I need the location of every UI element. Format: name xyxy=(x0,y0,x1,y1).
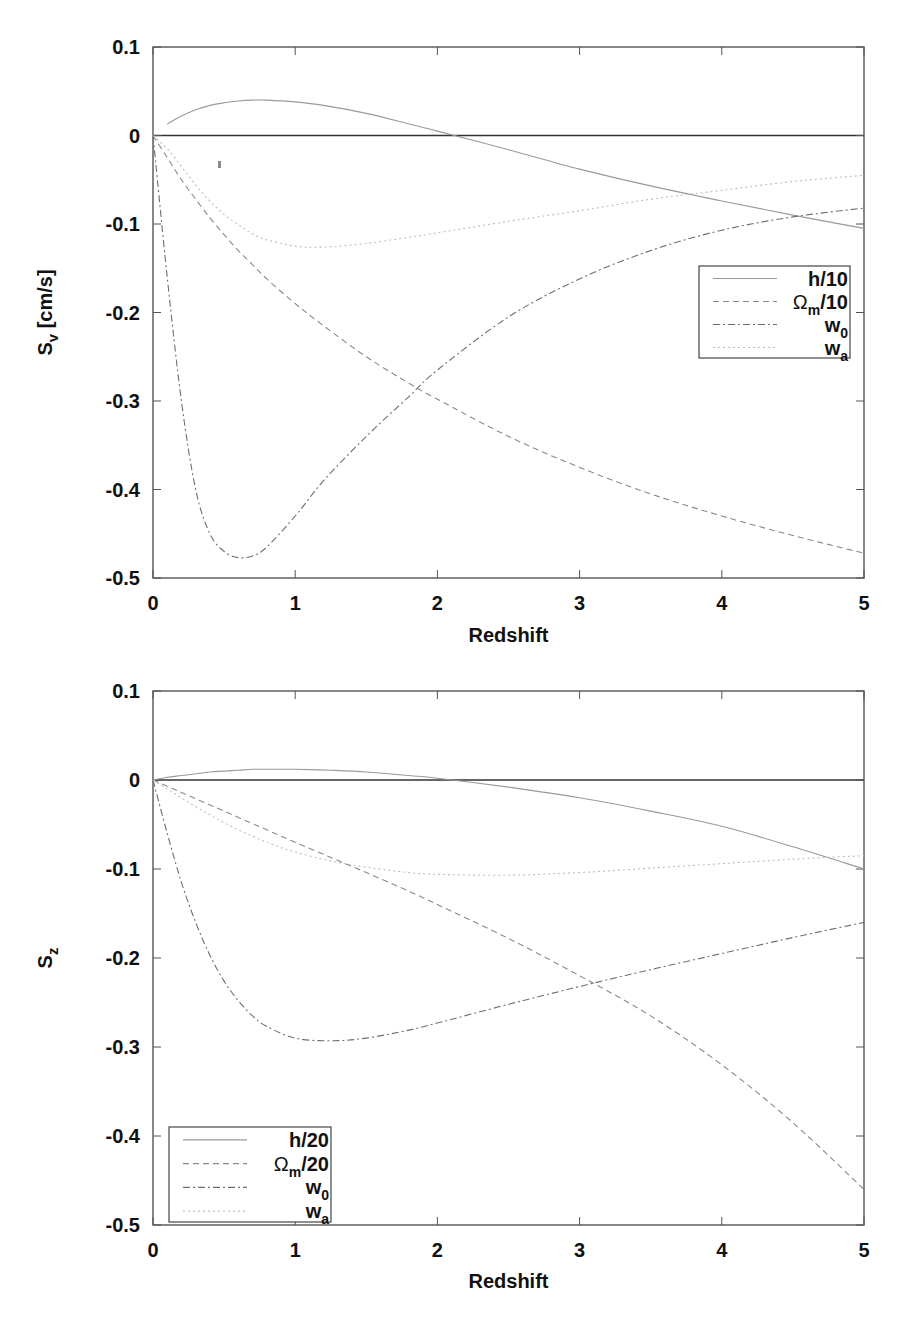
y-axis-label: Sv [cm/s] xyxy=(34,269,61,355)
series-line-w0 xyxy=(153,780,864,1041)
chart-panel-1: 0.10-0.1-0.2-0.3-0.4-0.5012345RedshiftSv… xyxy=(34,36,870,646)
y-tick-label: 0.1 xyxy=(112,36,140,58)
stray-mark xyxy=(218,161,221,168)
y-tick-label: -0.4 xyxy=(106,479,141,501)
legend: h/20Ωm/20w0wa xyxy=(169,1127,331,1227)
y-tick-label: -0.5 xyxy=(106,1214,140,1236)
x-tick-label: 2 xyxy=(432,592,443,614)
x-tick-label: 0 xyxy=(147,592,158,614)
x-tick-label: 5 xyxy=(858,1239,869,1261)
series-line-h20 xyxy=(153,769,864,869)
series-line-h10 xyxy=(167,100,864,228)
x-axis-label: Redshift xyxy=(469,624,549,646)
x-tick-label: 1 xyxy=(290,592,301,614)
y-tick-label: -0.3 xyxy=(106,390,140,412)
series-line-wa xyxy=(153,136,864,248)
x-tick-label: 5 xyxy=(858,592,869,614)
legend-label: h/20 xyxy=(289,1129,329,1151)
y-tick-label: -0.1 xyxy=(106,213,140,235)
y-tick-label: -0.2 xyxy=(106,302,140,324)
x-tick-label: 0 xyxy=(147,1239,158,1261)
y-tick-label: -0.1 xyxy=(106,858,140,880)
y-tick-label: 0.1 xyxy=(112,680,140,702)
legend-label: h/10 xyxy=(808,268,848,290)
x-tick-label: 4 xyxy=(716,1239,728,1261)
chart-panel-2: 0.10-0.1-0.2-0.3-0.4-0.5012345RedshiftSz… xyxy=(34,680,870,1292)
x-axis-label: Redshift xyxy=(469,1270,549,1292)
x-tick-label: 2 xyxy=(432,1239,443,1261)
series-group xyxy=(153,769,864,1189)
figure: 0.10-0.1-0.2-0.3-0.4-0.5012345RedshiftSv… xyxy=(0,0,909,1317)
y-tick-label: -0.3 xyxy=(106,1036,140,1058)
x-tick-label: 3 xyxy=(574,1239,585,1261)
y-tick-label: 0 xyxy=(129,125,140,147)
x-tick-label: 1 xyxy=(290,1239,301,1261)
y-tick-label: -0.5 xyxy=(106,567,140,589)
y-tick-label: -0.2 xyxy=(106,947,140,969)
x-tick-label: 4 xyxy=(716,592,728,614)
y-tick-label: -0.4 xyxy=(106,1125,141,1147)
legend: h/10Ωm/10w0wa xyxy=(699,266,850,364)
y-axis-label: Sz xyxy=(34,948,61,969)
y-tick-label: 0 xyxy=(129,769,140,791)
series-line-wa xyxy=(153,780,864,875)
x-tick-label: 3 xyxy=(574,592,585,614)
